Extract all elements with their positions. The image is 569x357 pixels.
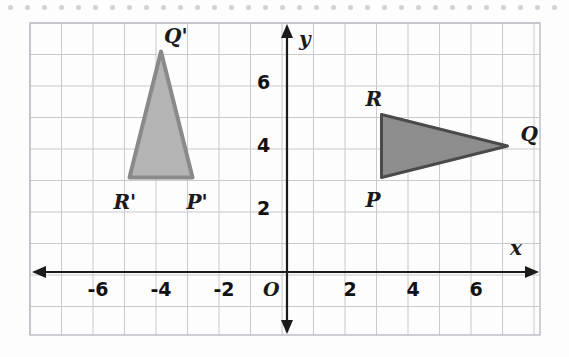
x-axis-arrow-right <box>525 266 539 278</box>
shape-layer <box>130 52 508 178</box>
vertex-label-Q: Q <box>521 124 538 144</box>
vertex-label-P-prime: P' <box>187 192 208 212</box>
vertex-label-R-prime: R' <box>114 192 137 212</box>
x-tick-label: -4 <box>150 280 171 299</box>
y-tick-label: 6 <box>257 73 270 92</box>
x-axis-arrow-left <box>32 266 46 278</box>
origin-label: O <box>263 280 280 299</box>
vertex-label-Q-prime: Q' <box>164 26 188 46</box>
x-tick-label: 4 <box>406 280 419 299</box>
y-tick-label: 2 <box>257 199 270 218</box>
x-tick-label: -6 <box>87 280 108 299</box>
y-axis-label: y <box>299 29 311 49</box>
triangle-PQR <box>382 115 508 178</box>
x-tick-label: 2 <box>343 280 356 299</box>
x-tick-label: -2 <box>213 280 234 299</box>
triangle-P-prime-Q-prime-R-prime <box>130 52 193 178</box>
x-axis-label: x <box>510 238 522 258</box>
coordinate-plane-figure <box>0 0 569 357</box>
y-axis-arrow-down <box>281 320 293 334</box>
vertex-label-P: P <box>366 190 381 210</box>
y-axis-arrow-up <box>281 24 293 38</box>
vertex-label-R: R <box>366 89 383 109</box>
x-tick-label: 6 <box>469 280 482 299</box>
y-tick-label: 4 <box>257 136 270 155</box>
